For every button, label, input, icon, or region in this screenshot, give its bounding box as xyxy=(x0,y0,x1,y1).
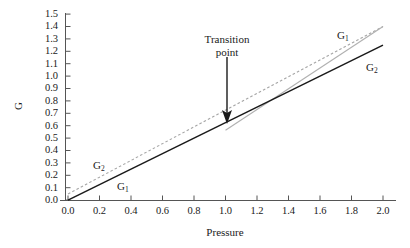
x-tick-label: 1.4 xyxy=(275,206,303,217)
x-tick-marks xyxy=(68,196,383,201)
y-tick-label: 1.0 xyxy=(26,71,58,82)
y-tick-label: 0.2 xyxy=(26,170,58,181)
transition-arrow-icon xyxy=(222,57,232,124)
x-tick-label: 0.4 xyxy=(117,206,145,217)
x-tick-label: 2.0 xyxy=(369,206,397,217)
x-tick-label: 0.2 xyxy=(86,206,114,217)
y-tick-label: 0.7 xyxy=(26,108,58,119)
series-line-g2 xyxy=(68,45,383,200)
y-axis-title: G xyxy=(12,94,24,118)
y-tick-label: 0.3 xyxy=(26,158,58,169)
series-label-subscript: 1 xyxy=(125,185,129,194)
series-label-text: G xyxy=(337,29,345,41)
series-label-subscript: 1 xyxy=(345,34,349,43)
x-tick-label: 1.0 xyxy=(212,206,240,217)
x-tick-label: 0.0 xyxy=(54,206,82,217)
series-label-g2-right: G2 xyxy=(366,61,378,73)
x-tick-label: 1.6 xyxy=(306,206,334,217)
x-tick-label: 0.8 xyxy=(180,206,208,217)
y-tick-label: 0.6 xyxy=(26,121,58,132)
y-tick-label: 0.0 xyxy=(26,195,58,206)
x-tick-label: 1.2 xyxy=(243,206,271,217)
transition-point-annotation: Transition point xyxy=(187,33,267,58)
series-label-subscript: 2 xyxy=(101,164,105,173)
y-tick-label: 0.5 xyxy=(26,133,58,144)
y-tick-label: 0.9 xyxy=(26,83,58,94)
y-tick-label: 0.8 xyxy=(26,96,58,107)
annotation-line-2: point xyxy=(187,46,267,59)
annotation-line-1: Transition xyxy=(187,33,267,46)
y-tick-label: 0.1 xyxy=(26,183,58,194)
series-label-text: G xyxy=(117,180,125,192)
y-tick-label: 1.3 xyxy=(26,34,58,45)
y-tick-label: 1.2 xyxy=(26,46,58,57)
x-axis-title: Pressure xyxy=(185,226,265,238)
series-label-text: G xyxy=(93,159,101,171)
x-tick-label: 1.8 xyxy=(338,206,366,217)
y-tick-label: 1.1 xyxy=(26,59,58,70)
y-tick-label: 0.4 xyxy=(26,145,58,156)
series-label-g1-right: G1 xyxy=(337,29,349,41)
series-label-g2-left: G2 xyxy=(93,159,105,171)
y-tick-marks xyxy=(66,14,71,200)
y-tick-label: 1.4 xyxy=(26,21,58,32)
x-tick-label: 0.6 xyxy=(149,206,177,217)
series-label-text: G xyxy=(366,61,374,73)
series-label-g1-left: G1 xyxy=(117,180,129,192)
series-label-subscript: 2 xyxy=(374,66,378,75)
y-tick-label: 1.5 xyxy=(26,9,58,20)
chart-figure: 1.5 1.4 1.3 1.2 1.1 1.0 0.9 0.8 0.7 0.6 … xyxy=(0,0,410,248)
